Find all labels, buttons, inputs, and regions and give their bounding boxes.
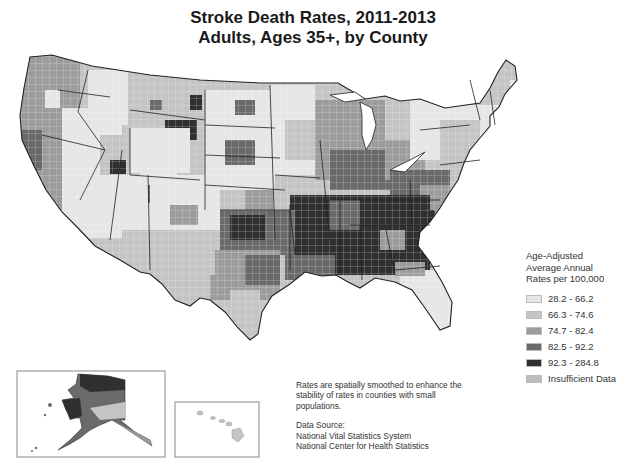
data-source-line: National Vital Statistics System [296,431,466,441]
smoothing-note: Rates are spatially smoothed to enhance … [296,380,466,411]
legend-item: 28.2 - 66.2 [526,291,626,307]
legend-item: 66.3 - 74.6 [526,307,626,323]
legend-item: 74.7 - 82.4 [526,323,626,339]
legend-item: 82.5 - 92.2 [526,339,626,355]
data-source-heading: Data Source: [296,420,466,430]
legend-swatch [526,343,542,351]
legend-swatch [526,295,542,303]
legend-swatch [526,327,542,335]
data-source-line: National Center for Health Statistics [296,441,466,451]
legend-item: 92.3 - 284.8 [526,355,626,371]
legend-title: Age-Adjusted Average Annual Rates per 10… [526,250,626,285]
map-title: Stroke Death Rates, 2011-2013 [0,8,626,28]
legend-swatch [526,375,542,383]
footnote: Rates are spatially smoothed to enhance … [296,380,466,451]
map-subtitle: Adults, Ages 35+, by County [0,28,626,48]
legend-item: Insufficient Data [526,371,626,387]
hawaii-inset [175,402,259,457]
legend-swatch [526,311,542,319]
legend: Age-Adjusted Average Annual Rates per 10… [526,250,626,387]
legend-swatch [526,359,542,367]
